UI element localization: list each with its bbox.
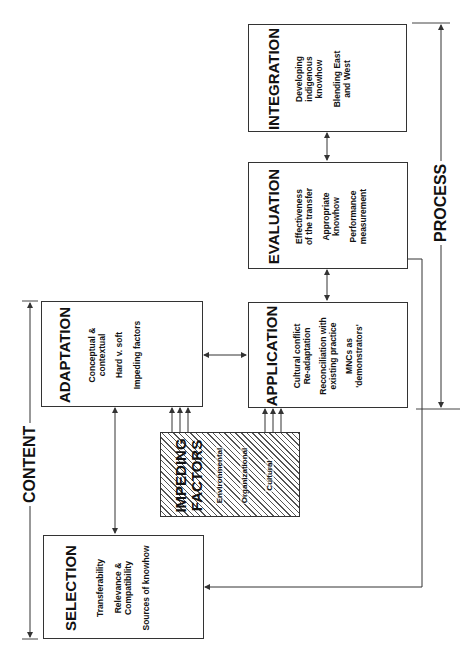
selection-item: Transferability bbox=[95, 559, 105, 617]
integration-box: INTEGRATION Developing indigenous knowho… bbox=[248, 24, 407, 132]
application-title: APPLICATION bbox=[263, 306, 280, 407]
integration-item: Developing indigenous knowhow bbox=[294, 56, 324, 102]
adaptation-title: ADAPTATION bbox=[56, 307, 73, 403]
evaluation-item: Effectiveness of the transfer bbox=[294, 188, 314, 245]
content-label: CONTENT bbox=[21, 423, 39, 506]
application-item: MNCs as 'demonstrators' bbox=[344, 324, 364, 388]
impeding-factor-item: Environmental bbox=[215, 447, 224, 505]
adaptation-item: Conceptual & contextual bbox=[87, 328, 107, 383]
evaluation-box: EVALUATION Effectiveness of the transfer… bbox=[248, 162, 408, 269]
integration-item: Blending East and West bbox=[332, 51, 352, 108]
selection-item: Sources of knowhow bbox=[141, 546, 151, 631]
adaptation-box: ADAPTATION Conceptual & contextual Hard … bbox=[41, 301, 203, 407]
impeding-factors-box: IMPEDING FACTORS Environmental Organizat… bbox=[160, 432, 300, 517]
impeding-factors-title: IMPEDING FACTORS bbox=[173, 438, 205, 512]
selection-box: SELECTION Transferability Relevance & Co… bbox=[43, 535, 204, 639]
evaluation-item: Performance measurement bbox=[348, 189, 368, 244]
evaluation-item: Appropriate knowhow bbox=[321, 192, 341, 240]
impeding-factor-item: Organizational bbox=[240, 447, 249, 505]
application-item: Reconciliation with existing practice bbox=[318, 317, 338, 394]
adaptation-item: Hard v. soft bbox=[114, 332, 124, 378]
application-box: APPLICATION Cultural conflict Re-adaptat… bbox=[248, 302, 408, 408]
knowhow-transfer-diagram: CONTENT PROCESS ADAPTATION Conceptual & … bbox=[0, 0, 472, 664]
process-label: PROCESS bbox=[432, 161, 450, 245]
selection-item: Relevance & Compatibility bbox=[113, 561, 133, 615]
impeding-to-adaptation-arrows bbox=[172, 408, 188, 432]
application-item: Cultural conflict Re-adaptation bbox=[292, 324, 312, 389]
integration-title: INTEGRATION bbox=[265, 28, 282, 130]
impeding-factor-item: Cultural bbox=[265, 459, 274, 491]
evaluation-title: EVALUATION bbox=[265, 169, 282, 264]
impeding-to-application-arrows bbox=[265, 409, 281, 432]
adaptation-item: Impeding factors bbox=[132, 321, 142, 389]
selection-title: SELECTION bbox=[62, 545, 79, 631]
